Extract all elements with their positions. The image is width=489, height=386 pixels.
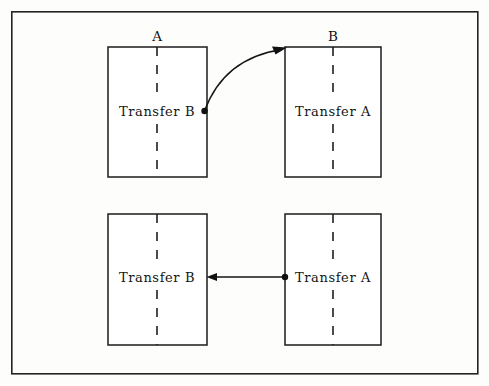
box-top-right-label: Transfer A xyxy=(295,104,371,119)
box-bottom-right-label: Transfer A xyxy=(295,270,371,285)
column-header-b: B xyxy=(328,28,338,44)
box-bottom-left-label: Transfer B xyxy=(119,270,195,285)
curved-arrow-source-dot xyxy=(201,108,207,114)
box-top-right: Transfer A xyxy=(285,47,381,177)
straight-arrow-source-dot xyxy=(282,274,288,280)
box-bottom-right: Transfer A xyxy=(285,214,381,345)
column-header-a: A xyxy=(151,28,162,44)
box-top-left: Transfer B xyxy=(108,47,207,177)
straight-arrow-head xyxy=(207,273,218,281)
figure-frame xyxy=(12,12,478,374)
box-top-left-label: Transfer B xyxy=(119,104,195,119)
box-bottom-left: Transfer B xyxy=(108,214,207,345)
connector-curved-arrow xyxy=(201,47,287,115)
connector-straight-arrow xyxy=(207,273,289,281)
figure-page: A B Transfer B Transfer A Transfer xyxy=(0,0,489,386)
transfer-diagram: A B Transfer B Transfer A Transfer xyxy=(0,0,489,386)
curved-arrow-path xyxy=(205,50,283,112)
